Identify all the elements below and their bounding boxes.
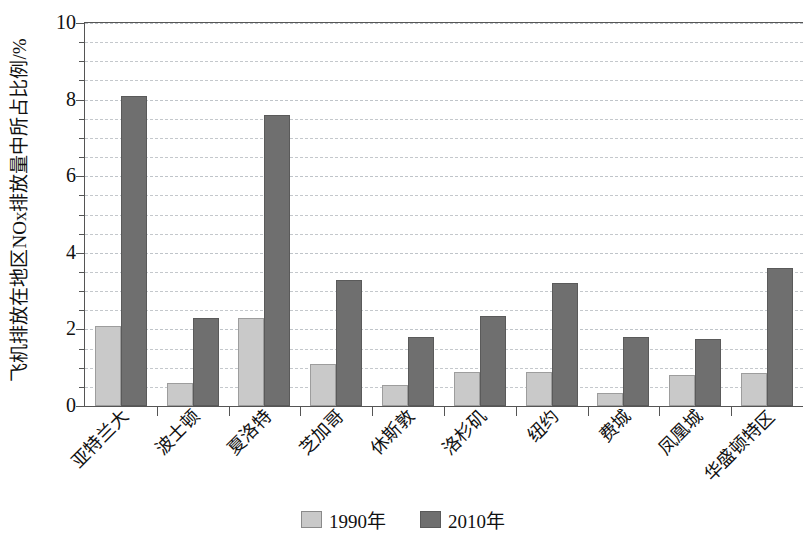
y-axis-tick [76,23,85,24]
legend-swatch [301,511,322,528]
legend-label: 2010年 [448,506,505,533]
x-axis-tick-label: 纽约 [524,407,563,446]
x-axis-tick-labels: 亚特兰大波士顿夏洛特芝加哥休斯敦洛杉矶纽约费城凤凰城华盛顿特区 [84,407,802,507]
y-axis-tick [79,61,85,62]
bar[interactable] [454,372,480,406]
y-axis-tick [79,42,85,43]
bar-group [372,23,444,406]
y-axis-tick-label: 2 [66,318,76,338]
x-axis-tick-label: 芝加哥 [296,407,348,459]
bar[interactable] [408,337,434,406]
y-axis-tick-labels: 0246810 [36,0,76,420]
chart-legend: 1990年2010年 [0,506,806,533]
bar-group [516,23,588,406]
y-axis-tick [79,195,85,196]
bar-group [229,23,301,406]
y-axis-tick-label: 10 [56,12,76,32]
y-axis-tick [79,310,85,311]
y-axis-tick [79,272,85,273]
x-axis-tick-label: 洛杉矶 [439,407,491,459]
bar[interactable] [767,268,793,406]
bar[interactable] [310,364,336,406]
y-axis-tick [79,80,85,81]
y-axis-title: 飞机排放在地区NOx排放量中所占比例/% [0,0,34,420]
bar-group [588,23,660,406]
bar[interactable] [382,385,408,406]
bar[interactable] [167,383,193,406]
legend-swatch [420,511,441,528]
y-axis-tick [79,387,85,388]
x-axis-tick-label: 夏洛特 [224,407,276,459]
y-axis-tick [76,329,85,330]
bar-group [85,23,157,406]
y-axis-tick-label: 4 [66,242,76,262]
bar[interactable] [597,393,623,406]
y-axis-tick [79,368,85,369]
bar-chart: 飞机排放在地区NOx排放量中所占比例/% 0246810 亚特兰大波士顿夏洛特芝… [0,0,806,537]
y-axis-tick-label: 0 [66,395,76,415]
bar-group [731,23,803,406]
bar[interactable] [741,373,767,406]
x-axis-tick-label: 华盛顿特区 [701,407,778,484]
y-axis-tick [79,234,85,235]
bar[interactable] [193,318,219,406]
bar-group [157,23,229,406]
x-axis-tick-label: 波士顿 [152,407,204,459]
legend-label: 1990年 [329,506,386,533]
bar[interactable] [238,318,264,406]
bar[interactable] [623,337,649,406]
bar[interactable] [526,372,552,406]
x-axis-tick-label: 凤凰城 [655,407,707,459]
bar[interactable] [695,339,721,406]
y-axis-tick [79,157,85,158]
x-axis-tick-label: 休斯敦 [367,407,419,459]
y-axis-tick [76,100,85,101]
plot-area [84,22,803,407]
y-axis-tick [79,349,85,350]
x-axis-tick-label: 费城 [596,407,635,446]
legend-item[interactable]: 2010年 [420,506,505,533]
y-axis-tick-label: 6 [66,165,76,185]
bar[interactable] [264,115,290,406]
y-axis-tick [79,138,85,139]
y-axis-tick [79,119,85,120]
legend-item[interactable]: 1990年 [301,506,386,533]
bar[interactable] [95,326,121,406]
y-axis-tick [76,253,85,254]
x-axis-tick-label: 亚特兰大 [68,407,132,471]
bar[interactable] [552,283,578,406]
bar-group [300,23,372,406]
y-axis-tick [79,291,85,292]
bar[interactable] [480,316,506,406]
y-axis-tick-label: 8 [66,89,76,109]
y-axis-tick [79,215,85,216]
bar-group [659,23,731,406]
bar[interactable] [121,96,147,406]
y-axis-tick [76,176,85,177]
bar[interactable] [336,280,362,406]
bar-group [444,23,516,406]
bar-groups [85,23,803,406]
bar[interactable] [669,375,695,406]
